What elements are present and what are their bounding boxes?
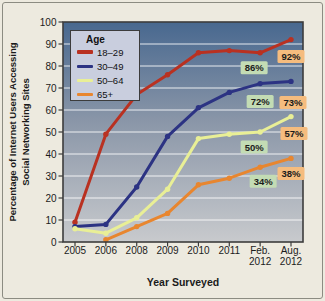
legend-title: Age	[77, 34, 139, 45]
data-point-50-64	[134, 215, 139, 220]
legend-item-50-64: 50–64	[77, 73, 139, 87]
data-point-65+	[165, 211, 170, 216]
data-point-50-64	[196, 136, 201, 141]
legend-swatch-30-49	[77, 65, 93, 69]
data-point-65+	[196, 182, 201, 187]
x-tick-label: 2012	[249, 256, 272, 267]
legend-label-18-29: 18–29	[97, 47, 123, 58]
legend-label-65+: 65+	[97, 89, 113, 100]
figure: Percentage of Internet Users Accessing S…	[0, 0, 325, 301]
legend-item-65+: 65+	[77, 88, 139, 102]
data-point-18-29	[103, 132, 108, 137]
x-tick-label: 2011	[219, 245, 241, 256]
y-tick-label: 70	[45, 83, 57, 94]
legend-label-50-64: 50–64	[97, 75, 123, 86]
line-chart: 0102030405060708090100200520062008200920…	[0, 0, 325, 301]
data-point-50-64	[288, 114, 293, 119]
y-tick-label: 100	[40, 17, 57, 28]
data-point-50-64	[165, 187, 170, 192]
data-point-30-49	[196, 105, 201, 110]
x-tick-label: 2006	[95, 245, 118, 256]
x-axis-title: Year Surveyed	[63, 276, 303, 288]
x-tick-label: Feb.	[250, 245, 270, 256]
x-tick-label: 2005	[64, 245, 87, 256]
legend-item-30-49: 30–49	[77, 59, 139, 73]
legend-label-30-49: 30–49	[97, 61, 123, 72]
y-tick-label: 0	[51, 237, 57, 248]
y-tick-label: 40	[45, 149, 57, 160]
legend-swatch-18-29	[77, 50, 93, 54]
annotation-label: 72%	[251, 96, 271, 107]
annotation-label: 73%	[283, 97, 303, 108]
data-point-65+	[134, 224, 139, 229]
data-point-30-49	[257, 81, 262, 86]
data-point-18-29	[227, 48, 232, 53]
y-tick-label: 30	[45, 171, 57, 182]
data-point-65+	[257, 165, 262, 170]
data-point-50-64	[257, 129, 262, 134]
data-point-50-64	[227, 132, 232, 137]
data-point-30-49	[288, 79, 293, 84]
annotation-label: 86%	[245, 62, 265, 73]
y-tick-label: 10	[45, 215, 57, 226]
legend-swatch-65+	[77, 93, 93, 97]
data-point-18-29	[288, 37, 293, 42]
data-point-30-49	[227, 90, 232, 95]
x-tick-label: 2008	[126, 245, 149, 256]
data-point-18-29	[257, 50, 262, 55]
x-tick-label: Aug.	[281, 245, 302, 256]
x-tick-label: 2012	[280, 256, 303, 267]
annotation-label: 50%	[245, 142, 265, 153]
y-tick-label: 80	[45, 61, 57, 72]
y-tick-label: 90	[45, 39, 57, 50]
legend-items: 18–2930–4950–6465+	[77, 45, 139, 102]
y-tick-label: 60	[45, 105, 57, 116]
data-point-30-49	[165, 134, 170, 139]
y-tick-label: 20	[45, 193, 57, 204]
data-point-18-29	[196, 50, 201, 55]
y-tick-label: 50	[45, 127, 57, 138]
data-point-30-49	[134, 184, 139, 189]
legend: Age 18–2930–4950–6465+	[70, 30, 140, 101]
annotation-label: 34%	[254, 176, 274, 187]
data-point-65+	[227, 176, 232, 181]
annotation-label: 57%	[284, 128, 304, 139]
data-point-30-49	[103, 222, 108, 227]
data-point-50-64	[103, 231, 108, 236]
legend-item-18-29: 18–29	[77, 45, 139, 59]
x-tick-label: 2010	[187, 245, 210, 256]
data-point-18-29	[165, 72, 170, 77]
x-tick-label: 2009	[156, 245, 179, 256]
annotation-label: 92%	[281, 51, 301, 62]
data-point-50-64	[72, 226, 77, 231]
annotation-label: 38%	[281, 168, 301, 179]
legend-swatch-50-64	[77, 79, 93, 83]
data-point-65+	[288, 156, 293, 161]
